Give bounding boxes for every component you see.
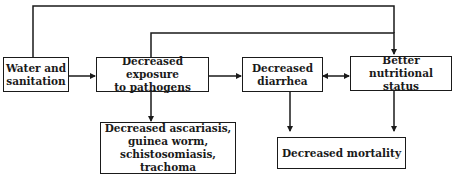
node-decreased-exposure: Decreased exposure to pathogens [96,57,209,92]
node-better-nutrition: Better nutritional status [350,56,452,91]
edge-water-to-nutrition [33,6,394,57]
node-water-sanitation: Water and sanitation [3,57,69,92]
node-decreased-mortality: Decreased mortality [277,137,406,169]
flow-diagram: Water and sanitation Decreased exposure … [0,0,453,175]
node-decreased-diseases: Decreased ascariasis, guinea worm, schis… [100,122,236,174]
node-decreased-diarrhea: Decreased diarrhea [242,57,323,92]
